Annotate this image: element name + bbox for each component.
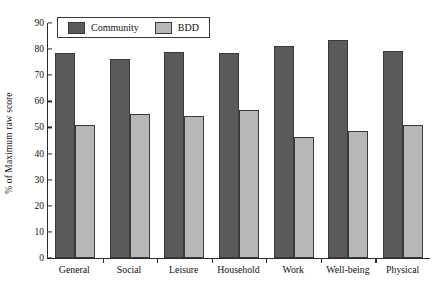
x-axis-tick-mark — [157, 258, 158, 263]
bar-community-general[interactable] — [55, 53, 75, 258]
bar-bdd-work[interactable] — [294, 137, 314, 258]
y-axis-tick-label: 50 — [35, 122, 49, 132]
y-axis-tick: 50 — [35, 121, 49, 133]
legend-swatch-icon — [155, 22, 172, 34]
x-axis-label: General — [47, 264, 102, 282]
y-axis-tick: 80 — [35, 43, 49, 55]
bar-community-work[interactable] — [274, 46, 294, 258]
y-axis-tick-label: 30 — [35, 175, 49, 185]
y-axis-tick-label: 60 — [35, 96, 49, 106]
plot-area: 0102030405060708090 — [47, 23, 430, 259]
legend-entry-bdd[interactable]: BDD — [155, 22, 199, 34]
x-axis-labels: GeneralSocialLeisureHouseholdWorkWell-be… — [47, 264, 430, 282]
y-axis-tick: 30 — [35, 174, 49, 186]
y-axis-tick: 40 — [35, 148, 49, 160]
bar-community-social[interactable] — [110, 59, 130, 258]
y-axis-tick: 20 — [35, 200, 49, 212]
legend-entry-community[interactable]: Community — [68, 22, 139, 34]
bar-group — [321, 23, 376, 258]
y-axis-tick: 0 — [39, 252, 48, 264]
bar-bdd-well-being[interactable] — [348, 131, 368, 258]
bar-community-leisure[interactable] — [164, 52, 184, 258]
chart-legend: CommunityBDD — [57, 17, 210, 38]
x-axis-tick-mark — [212, 258, 213, 263]
bars-layer — [48, 23, 430, 258]
bar-group — [212, 23, 267, 258]
y-axis-tick: 10 — [35, 226, 49, 238]
bar-group — [103, 23, 158, 258]
y-axis-title: % of Maximum raw score — [0, 0, 18, 286]
bar-chart: % of Maximum raw score 01020304050607080… — [0, 0, 438, 286]
bar-community-physical[interactable] — [383, 51, 403, 258]
legend-label: BDD — [178, 22, 199, 33]
bar-group — [375, 23, 430, 258]
bar-bdd-physical[interactable] — [403, 125, 423, 258]
legend-label: Community — [91, 22, 139, 33]
bar-bdd-general[interactable] — [75, 125, 95, 258]
legend-swatch-icon — [68, 22, 85, 34]
y-axis-tick: 90 — [35, 17, 49, 29]
bar-bdd-social[interactable] — [130, 114, 150, 258]
bar-group — [266, 23, 321, 258]
bar-bdd-household[interactable] — [239, 110, 259, 258]
x-axis-tick-mark — [375, 258, 376, 263]
y-axis-tick-label: 80 — [35, 44, 49, 54]
bar-community-household[interactable] — [219, 53, 239, 258]
x-axis-tick-mark — [266, 258, 267, 263]
bar-bdd-leisure[interactable] — [184, 116, 204, 258]
bar-group — [48, 23, 103, 258]
bar-group — [157, 23, 212, 258]
bar-community-well-being[interactable] — [328, 40, 348, 258]
y-axis-tick-label: 0 — [39, 253, 48, 263]
y-axis-tick: 60 — [35, 95, 49, 107]
x-axis-tick-mark — [321, 258, 322, 263]
y-axis-tick-label: 90 — [35, 18, 49, 28]
x-axis-label: Leisure — [156, 264, 211, 282]
x-axis-tick-mark — [103, 258, 104, 263]
x-axis-label: Well-being — [321, 264, 376, 282]
x-axis-label: Social — [102, 264, 157, 282]
y-axis-tick-label: 40 — [35, 149, 49, 159]
x-axis-label: Work — [266, 264, 321, 282]
y-axis-tick: 70 — [35, 69, 49, 81]
y-axis-tick-label: 70 — [35, 70, 49, 80]
x-axis-label: Physical — [375, 264, 430, 282]
y-axis-tick-label: 20 — [35, 201, 49, 211]
x-axis-label: Household — [211, 264, 266, 282]
y-axis-tick-label: 10 — [35, 227, 49, 237]
